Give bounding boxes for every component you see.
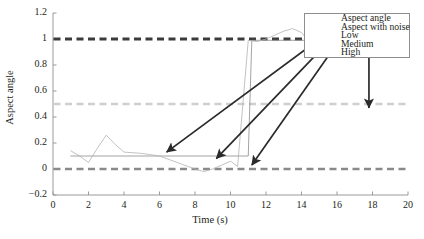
x-axis-label: Time (s) xyxy=(150,214,270,225)
x-tick-label: 8 xyxy=(180,199,210,210)
legend-label-high: High xyxy=(341,47,360,57)
x-tick-label: 18 xyxy=(358,199,388,210)
x-tick-label: 16 xyxy=(322,199,352,210)
x-tick-label: 2 xyxy=(74,199,104,210)
x-tick-label: 14 xyxy=(287,199,317,210)
x-tick-label: 6 xyxy=(145,199,175,210)
x-tick-label: 4 xyxy=(109,199,139,210)
y-tick-label: 0 xyxy=(11,162,47,173)
x-tick-label: 12 xyxy=(251,199,281,210)
chart-legend: Aspect angle Aspect with noise Low Mediu… xyxy=(304,13,410,58)
y-tick-label: 1.2 xyxy=(11,6,47,17)
legend-item-high: High xyxy=(305,48,409,57)
x-tick-label: 0 xyxy=(38,199,68,210)
chart-figure: Aspect angle Time (s) 1.210.80.60.40.20−… xyxy=(0,0,424,239)
x-tick-label: 10 xyxy=(216,199,246,210)
y-tick-label: 0.6 xyxy=(11,84,47,95)
x-tick-label: 20 xyxy=(393,199,423,210)
y-tick-label: 0.8 xyxy=(11,58,47,69)
y-tick-label: 1 xyxy=(11,32,47,43)
y-tick-label: 0.2 xyxy=(11,136,47,147)
y-tick-label: 0.4 xyxy=(11,110,47,121)
y-tick-label: −0.2 xyxy=(11,188,47,199)
x-tick-marks xyxy=(53,192,408,196)
